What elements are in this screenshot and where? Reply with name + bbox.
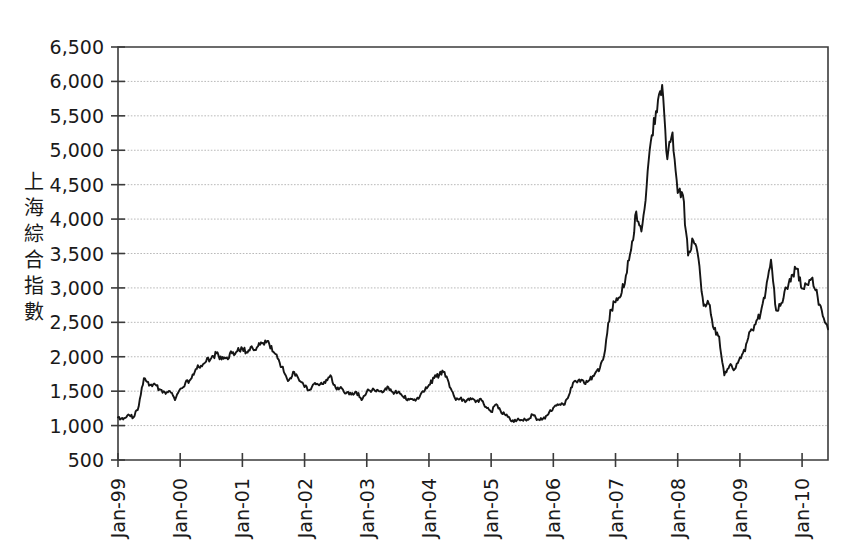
y-tick-label: 1,000: [50, 415, 104, 437]
x-tick-labels-group: Jan-99Jan-00Jan-01Jan-02Jan-03Jan-04Jan-…: [107, 478, 813, 539]
chart-canvas: 5001,0001,5002,0002,5003,0003,5004,0004,…: [0, 0, 853, 559]
x-tick-label: Jan-09: [729, 478, 751, 539]
y-tick-label: 5,500: [50, 105, 104, 127]
x-tick-label: Jan-99: [107, 478, 129, 539]
x-tick-label: Jan-08: [667, 478, 689, 539]
x-tick-label: Jan-05: [480, 478, 502, 539]
x-tick-label: Jan-10: [791, 478, 813, 539]
shanghai-composite-line-chart: 5001,0001,5002,0002,5003,0003,5004,0004,…: [0, 0, 853, 559]
y-tick-label: 3,500: [50, 243, 104, 265]
y-tick-label: 4,500: [50, 174, 104, 196]
y-axis-title-char: 合: [24, 248, 44, 272]
gridlines-group: [118, 81, 828, 425]
y-tick-labels-group: 5001,0001,5002,0002,5003,0003,5004,0004,…: [50, 36, 104, 471]
y-tick-label: 500: [68, 449, 104, 471]
x-tick-label: Jan-03: [356, 478, 378, 539]
y-tick-label: 6,500: [50, 36, 104, 58]
x-tick-label: Jan-01: [231, 478, 253, 539]
y-axis-title-char: 數: [24, 300, 44, 324]
y-axis-title-char: 綜: [24, 222, 44, 246]
y-tick-label: 3,000: [50, 277, 104, 299]
y-tick-label: 2,000: [50, 346, 104, 368]
x-tick-label: Jan-00: [169, 478, 191, 539]
y-axis-title-char: 海: [24, 196, 44, 220]
y-axis-title: 上海綜合指數: [24, 170, 44, 324]
x-tick-label: Jan-07: [605, 478, 627, 539]
y-axis-title-char: 上: [24, 170, 44, 194]
y-tick-label: 6,000: [50, 70, 104, 92]
y-tick-label: 4,000: [50, 208, 104, 230]
x-tick-label: Jan-02: [294, 478, 316, 539]
y-axis-title-char: 指: [24, 274, 44, 298]
x-tick-label: Jan-04: [418, 478, 440, 539]
y-tick-label: 2,500: [50, 311, 104, 333]
y-tick-label: 1,500: [50, 380, 104, 402]
x-tick-label: Jan-06: [542, 478, 564, 539]
y-tick-label: 5,000: [50, 139, 104, 161]
